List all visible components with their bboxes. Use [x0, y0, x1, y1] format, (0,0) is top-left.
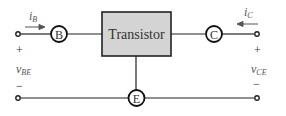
terminal-base-return [16, 96, 20, 100]
emitter-node-label: E [133, 92, 140, 106]
vbe-plus-sign: + [16, 43, 23, 57]
transistor-block-diagram: Transistor B C E iB iC + vBE − + vCE − [0, 0, 286, 116]
collector-current-arrowhead-icon [237, 22, 243, 27]
transistor-label: Transistor [108, 27, 165, 42]
terminal-collector-output [255, 32, 259, 36]
collector-current-label: iC [244, 5, 253, 20]
terminal-collector-return [255, 96, 259, 100]
diagram-svg: Transistor B C E iB iC + vBE − + vCE − [0, 0, 286, 116]
base-current-label: iB [29, 9, 37, 24]
terminal-base-input [16, 32, 20, 36]
vce-plus-sign: + [254, 43, 261, 57]
vce-label: vCE [251, 62, 267, 77]
vbe-minus-sign: − [16, 79, 23, 93]
vbe-label: vBE [16, 62, 31, 77]
vce-minus-sign: − [253, 77, 260, 91]
base-node-label: B [55, 28, 63, 42]
collector-node-label: C [210, 28, 218, 42]
base-current-arrowhead-icon [39, 25, 45, 30]
